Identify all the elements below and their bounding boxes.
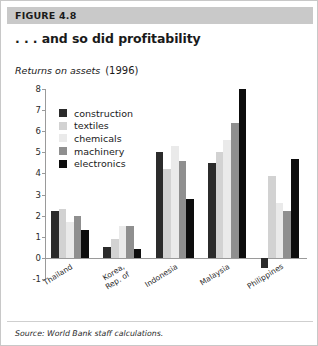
y-tick-label: 2 bbox=[36, 211, 41, 221]
y-tick-mark bbox=[42, 216, 45, 217]
y-tick-label: 6 bbox=[36, 126, 41, 136]
legend-swatch-icon-chemicals bbox=[59, 134, 67, 142]
axis-subtitle-text: Returns on assets bbox=[15, 65, 100, 76]
bar-machinery-indonesia bbox=[179, 161, 187, 258]
legend-label: construction bbox=[74, 108, 133, 119]
axis-subtitle: Returns on assets(1996) bbox=[15, 59, 138, 78]
legend-swatch-icon-textiles bbox=[59, 122, 67, 130]
bar-machinery-thailand bbox=[74, 216, 82, 258]
legend-label: electronics bbox=[74, 158, 126, 169]
y-axis-line bbox=[45, 89, 46, 279]
y-tick-label: 4 bbox=[36, 168, 41, 178]
legend-swatch-icon-machinery bbox=[59, 147, 67, 155]
y-tick-mark bbox=[42, 195, 45, 196]
chart-legend: constructiontextileschemicalsmachineryel… bbox=[59, 107, 133, 170]
bar-construction-malaysia bbox=[208, 163, 216, 258]
legend-swatch-icon-electronics bbox=[59, 160, 67, 168]
legend-label: chemicals bbox=[74, 133, 122, 144]
bar-electronics-malaysia bbox=[239, 89, 247, 258]
bar-electronics-indonesia bbox=[186, 199, 194, 258]
legend-swatch-icon-construction bbox=[59, 109, 67, 117]
y-tick-mark bbox=[42, 152, 45, 153]
bar-chemicals-philippines bbox=[276, 203, 284, 258]
legend-item-electronics: electronics bbox=[59, 157, 133, 170]
figure-card: FIGURE 4.8 . . . and so did profitabilit… bbox=[0, 0, 318, 346]
bar-chemicals-malaysia bbox=[223, 140, 231, 258]
bar-textiles-indonesia bbox=[163, 169, 171, 258]
bar-electronics-thailand bbox=[81, 230, 89, 257]
bar-electronics-korea-rep-of bbox=[134, 249, 142, 257]
y-tick-label: 8 bbox=[36, 84, 41, 94]
y-tick-label: 0 bbox=[36, 253, 41, 263]
bar-textiles-korea-rep-of bbox=[111, 239, 119, 258]
y-tick-label: 7 bbox=[36, 105, 41, 115]
bar-construction-philippines bbox=[261, 258, 269, 269]
bar-chemicals-thailand bbox=[66, 222, 74, 258]
source-divider bbox=[7, 321, 313, 322]
y-tick-label: 3 bbox=[36, 190, 41, 200]
bar-machinery-philippines bbox=[283, 211, 291, 257]
bar-construction-korea-rep-of bbox=[103, 247, 111, 258]
figure-header-bar: FIGURE 4.8 bbox=[7, 7, 313, 24]
bar-textiles-philippines bbox=[268, 176, 276, 258]
figure-title: . . . and so did profitability bbox=[15, 31, 201, 46]
bar-textiles-malaysia bbox=[216, 152, 224, 258]
bar-chemicals-korea-rep-of bbox=[119, 226, 127, 258]
legend-label: machinery bbox=[74, 146, 124, 157]
y-tick-mark bbox=[42, 237, 45, 238]
y-tick-mark bbox=[42, 131, 45, 132]
bar-machinery-malaysia bbox=[231, 123, 239, 258]
source-note: Source: World Bank staff calculations. bbox=[15, 329, 163, 338]
legend-item-chemicals: chemicals bbox=[59, 132, 133, 145]
y-tick-label: 5 bbox=[36, 147, 41, 157]
bar-construction-indonesia bbox=[156, 152, 164, 258]
y-tick-mark bbox=[42, 110, 45, 111]
bar-textiles-thailand bbox=[59, 209, 67, 258]
bar-machinery-korea-rep-of bbox=[126, 226, 134, 258]
bar-electronics-philippines bbox=[291, 159, 299, 258]
y-tick-mark bbox=[42, 89, 45, 90]
y-tick-mark bbox=[42, 173, 45, 174]
y-tick-mark bbox=[42, 258, 45, 259]
legend-label: textiles bbox=[74, 120, 109, 131]
axis-subtitle-year: (1996) bbox=[105, 65, 138, 76]
bar-chemicals-indonesia bbox=[171, 146, 179, 258]
figure-number-label: FIGURE 4.8 bbox=[15, 10, 76, 21]
bar-construction-thailand bbox=[51, 211, 59, 257]
legend-item-construction: construction bbox=[59, 107, 133, 120]
y-tick-label: 1 bbox=[36, 232, 41, 242]
legend-item-textiles: textiles bbox=[59, 120, 133, 133]
legend-item-machinery: machinery bbox=[59, 145, 133, 158]
